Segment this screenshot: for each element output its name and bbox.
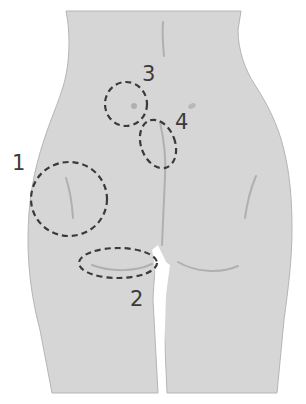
body-diagram: 1 2 3 4	[0, 0, 306, 404]
region-2-label: 2	[130, 287, 143, 311]
region-1-label: 1	[12, 151, 25, 175]
region-4-label: 4	[175, 110, 188, 134]
region-3-label: 3	[142, 62, 155, 86]
left-dimple	[131, 103, 137, 109]
